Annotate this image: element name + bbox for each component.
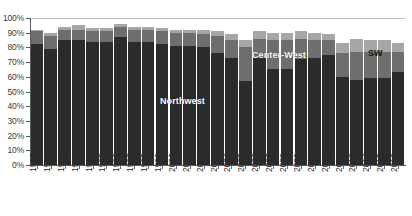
x-tick: 2015 — [377, 166, 391, 216]
bar-segment-sw — [295, 31, 308, 38]
bar-column[interactable] — [211, 18, 225, 165]
bar-segment-northwest — [378, 78, 391, 165]
x-tick-label: 2006 — [250, 153, 260, 172]
bar-segment-sw — [392, 43, 405, 52]
bar-column[interactable] — [322, 18, 336, 165]
bar-segment-northwest — [114, 37, 127, 165]
bar-column[interactable] — [363, 18, 377, 165]
x-tick: 2009 — [294, 166, 308, 216]
x-tick-label: 1999 — [153, 153, 163, 172]
bar-column[interactable] — [99, 18, 113, 165]
bar-column[interactable] — [308, 18, 322, 165]
bar-column[interactable] — [141, 18, 155, 165]
x-tick: 1991 — [44, 166, 58, 216]
bar-segment-northwest — [58, 40, 71, 165]
bar-column[interactable] — [30, 18, 44, 165]
bar-segment-center-west — [156, 31, 169, 44]
x-tick: 2001 — [183, 166, 197, 216]
x-tick: 1998 — [141, 166, 155, 216]
bar-column[interactable] — [169, 18, 183, 165]
bar-segment-center-west — [197, 34, 210, 47]
bar-segment-center-west — [336, 53, 349, 77]
y-tick-label: 60% — [0, 72, 24, 82]
x-tick-label: 2010 — [305, 153, 315, 172]
y-tick-label: 10% — [0, 145, 24, 155]
bar-segment-sw — [267, 33, 280, 40]
bar-column[interactable] — [391, 18, 405, 165]
bar-segment-center-west — [322, 40, 335, 55]
bar-segment-center-west — [31, 31, 44, 44]
bar-segment-northwest — [211, 53, 224, 165]
x-tick-label: 1995 — [97, 153, 107, 172]
x-tick-label: 2004 — [222, 153, 232, 172]
x-tick: 1996 — [113, 166, 127, 216]
bar-segment-center-west — [142, 30, 155, 42]
x-tick-label: 1998 — [139, 153, 149, 172]
x-tick: 2003 — [211, 166, 225, 216]
x-tick-label: 1991 — [42, 153, 52, 172]
bar-column[interactable] — [44, 18, 58, 165]
bar-column[interactable] — [72, 18, 86, 165]
x-tick: 2008 — [280, 166, 294, 216]
bar-segment-center-west — [170, 33, 183, 46]
y-tick-label: 80% — [0, 42, 24, 52]
x-tick-label: 2008 — [278, 153, 288, 172]
bar-column[interactable] — [86, 18, 100, 165]
y-tick-label: 70% — [0, 57, 24, 67]
bar-segment-northwest — [31, 44, 44, 165]
x-tick: 2004 — [224, 166, 238, 216]
bar-column[interactable] — [58, 18, 72, 165]
bar-column[interactable] — [238, 18, 252, 165]
x-tick-label: 2001 — [180, 153, 190, 172]
bar-column[interactable] — [197, 18, 211, 165]
bar-column[interactable] — [155, 18, 169, 165]
x-tick: 1992 — [58, 166, 72, 216]
x-tick-label: 2007 — [264, 153, 274, 172]
bar-series-container — [30, 18, 405, 165]
x-tick-label: 1996 — [111, 153, 121, 172]
bar-column[interactable] — [224, 18, 238, 165]
plot-area: Northwest Center-West SW — [30, 18, 405, 165]
bar-column[interactable] — [252, 18, 266, 165]
y-tick-label: 50% — [0, 87, 24, 97]
x-tick: 1993 — [72, 166, 86, 216]
x-tick: 2013 — [349, 166, 363, 216]
bar-segment-sw — [308, 33, 321, 40]
bar-segment-center-west — [72, 30, 85, 40]
bar-column[interactable] — [349, 18, 363, 165]
bar-column[interactable] — [127, 18, 141, 165]
bar-segment-center-west — [128, 30, 141, 42]
x-tick: 2007 — [266, 166, 280, 216]
x-tick-label: 2015 — [375, 153, 385, 172]
bar-column[interactable] — [294, 18, 308, 165]
bar-segment-northwest — [336, 77, 349, 165]
x-tick: 2006 — [252, 166, 266, 216]
x-tick-label: 2003 — [208, 153, 218, 172]
bar-segment-center-west — [100, 31, 113, 41]
bar-column[interactable] — [280, 18, 294, 165]
bar-segment-northwest — [267, 69, 280, 165]
bar-column[interactable] — [183, 18, 197, 165]
bar-segment-center-west — [86, 31, 99, 41]
x-tick: 2000 — [169, 166, 183, 216]
bar-segment-sw — [336, 43, 349, 53]
bar-segment-northwest — [128, 42, 141, 165]
bar-segment-center-west — [308, 40, 321, 58]
bar-column[interactable] — [266, 18, 280, 165]
bar-column[interactable] — [336, 18, 350, 165]
bar-segment-center-west — [44, 36, 57, 49]
bar-segment-center-west — [211, 36, 224, 54]
x-tick: 1994 — [86, 166, 100, 216]
bar-segment-center-west — [239, 47, 252, 81]
bar-column[interactable] — [113, 18, 127, 165]
x-tick: 2014 — [363, 166, 377, 216]
x-tick-label: 2012 — [333, 153, 343, 172]
bar-segment-northwest — [322, 55, 335, 165]
bar-segment-northwest — [392, 72, 405, 165]
bar-column[interactable] — [377, 18, 391, 165]
x-tick: 2011 — [322, 166, 336, 216]
bar-segment-northwest — [197, 47, 210, 165]
bar-segment-sw — [239, 40, 252, 47]
y-tick-label: 100% — [0, 13, 24, 23]
x-tick: 1999 — [155, 166, 169, 216]
